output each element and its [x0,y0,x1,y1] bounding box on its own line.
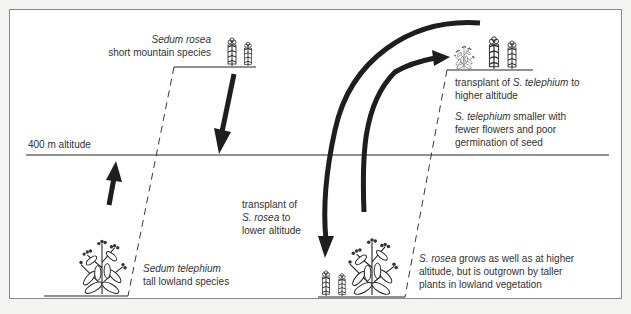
label-telephium-result: S. telephium smaller with fewer flowers … [455,110,566,149]
label-sedum-telephium: Sedum telephium tall lowland species [143,262,229,288]
plant-sedum-rosea-upper-2 [245,42,252,66]
label-transplant-telephium: transplant of S. telephium to higher alt… [455,76,580,102]
plant-rosea-lowered-2 [339,274,345,296]
label-rosea-result: S. rosea grows as well as at higher alti… [419,252,574,291]
label-transplant-rosea: transplant of S. rosea to lower altitude [242,198,301,237]
arrow-up-telephium [106,161,122,205]
arrow-transplant-telephium-up [363,50,450,212]
plant-rosea-upper-right [489,37,498,69]
plant-telephium-lowland-right [348,238,398,296]
plant-telephium-stunted [454,46,474,70]
arrow-down-rosea [214,74,234,154]
label-altitude: 400 m altitude [28,138,91,151]
plant-sedum-rosea-upper [228,38,236,66]
plant-rosea-lowered [322,271,329,296]
plant-telephium-lowland [79,240,126,296]
plant-rosea-upper-right-2 [508,41,516,69]
label-sedum-rosea: Sedum rosea short mountain species [108,33,211,59]
